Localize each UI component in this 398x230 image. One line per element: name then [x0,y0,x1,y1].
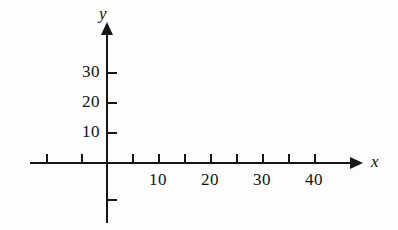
x-axis-tick [46,154,48,163]
x-axis-tick [81,154,83,163]
y-axis-tick [108,132,117,134]
y-axis-tick-label-10: 10 [56,122,100,142]
x-axis-tick-label-40: 40 [294,170,334,190]
x-axis-tick [288,154,290,163]
x-axis-tick [236,154,238,163]
coordinate-axes-figure: 10 20 30 40 30 20 10 x y [0,0,398,230]
x-axis-tick-label-10: 10 [138,170,178,190]
x-axis-tick [210,154,212,163]
x-axis-tick [314,154,316,163]
y-axis-tick [108,199,117,201]
y-axis-tick-label-20: 20 [56,92,100,112]
x-axis-tick-label-30: 30 [242,170,282,190]
x-axis-arrow-icon [350,157,363,169]
y-axis-line [106,26,108,223]
x-axis-tick [262,154,264,163]
x-axis-line [30,162,352,164]
x-axis-tick [184,154,186,163]
y-axis-name-label: y [99,4,107,24]
y-axis-tick [108,72,117,74]
x-axis-tick [132,154,134,163]
x-axis-tick-label-20: 20 [190,170,230,190]
x-axis-name-label: x [371,152,379,172]
y-axis-tick [108,102,117,104]
x-axis-tick [158,154,160,163]
y-axis-tick-label-30: 30 [56,62,100,82]
